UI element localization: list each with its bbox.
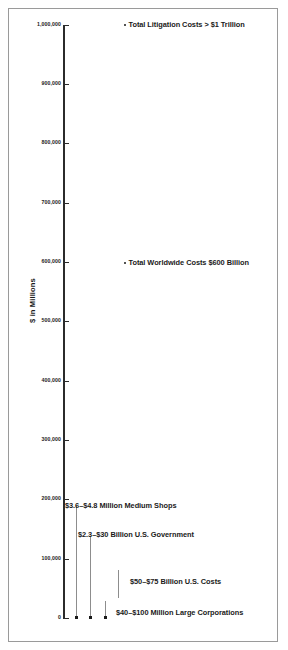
range-cap-us-government — [89, 616, 92, 619]
y-tick-label: 600,000 — [42, 259, 61, 264]
y-tick-mark — [65, 84, 69, 85]
y-tick-mark — [65, 499, 69, 500]
y-tick-label: 800,000 — [42, 140, 61, 145]
y-tick-mark — [65, 618, 69, 619]
y-tick-mark — [65, 25, 69, 26]
y-tick-label: 0 — [58, 615, 61, 620]
y-tick-mark — [65, 559, 69, 560]
y-tick-mark — [65, 143, 69, 144]
annotation-total-worldwide-costs: Total Worldwide Costs $600 Billion — [124, 259, 249, 266]
y-tick-label: 300,000 — [42, 437, 61, 442]
y-tick-label: 500,000 — [42, 318, 61, 323]
range-cap-medium-shops — [75, 616, 78, 619]
bullet-dot-icon — [124, 24, 126, 26]
plot-area: $ in Millions 1,000,000 900,000 800,000 … — [0, 0, 288, 650]
annotation-label: Total Worldwide Costs $600 Billion — [129, 258, 249, 267]
annotation-total-litigation-costs: Total Litigation Costs > $1 Trillion — [124, 21, 245, 28]
chart-container: $ in Millions 1,000,000 900,000 800,000 … — [0, 0, 288, 650]
y-tick-mark — [65, 381, 69, 382]
range-bar-medium-shops — [76, 506, 77, 618]
range-label-us-costs: $50–$75 Billion U.S. Costs — [130, 578, 221, 585]
y-tick-mark — [65, 440, 69, 441]
range-cap-large-corporations — [104, 616, 107, 619]
bullet-dot-icon — [124, 262, 126, 264]
y-tick-label: 100,000 — [42, 556, 61, 561]
y-tick-mark — [65, 203, 69, 204]
range-label-medium-shops: $3.6–$4.8 Million Medium Shops — [65, 502, 176, 509]
y-tick-mark — [65, 262, 69, 263]
y-axis-line — [63, 25, 65, 619]
y-tick-label: 200,000 — [42, 496, 61, 501]
range-label-us-government: $2.3–$30 Billion U.S. Government — [78, 531, 194, 538]
annotation-label: Total Litigation Costs > $1 Trillion — [129, 20, 245, 29]
y-tick-label: 900,000 — [42, 81, 61, 86]
y-axis-title: $ in Millions — [28, 265, 37, 337]
y-tick-label: 400,000 — [42, 378, 61, 383]
y-tick-label: 1,000,000 — [37, 22, 61, 27]
y-tick-label: 700,000 — [42, 200, 61, 205]
range-bar-us-government — [90, 536, 91, 618]
range-label-large-corporations: $40–$100 Million Large Corporations — [116, 609, 243, 616]
range-bar-us-costs — [118, 570, 119, 598]
y-tick-mark — [65, 321, 69, 322]
